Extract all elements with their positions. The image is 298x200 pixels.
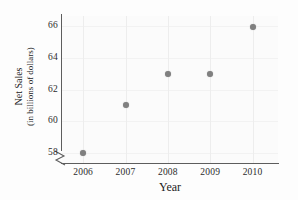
x-axis-tick-label: 2008 <box>158 167 178 177</box>
x-axis-tick-label: 2006 <box>73 167 93 177</box>
y-axis-title-line1: Net Sales <box>13 12 25 162</box>
vertical-gridline <box>83 16 84 163</box>
horizontal-gridline <box>62 90 278 91</box>
plot-area <box>62 16 278 163</box>
horizontal-gridline <box>62 153 278 154</box>
vertical-gridline <box>253 16 254 163</box>
horizontal-gridline <box>62 26 278 27</box>
y-axis-line <box>61 14 62 151</box>
vertical-gridline <box>210 16 211 163</box>
vertical-gridline <box>126 16 127 163</box>
vertical-gridline <box>168 16 169 163</box>
x-axis-tick-label: 2010 <box>243 167 263 177</box>
horizontal-gridline <box>62 121 278 122</box>
x-axis-tick-label: 2009 <box>200 167 220 177</box>
data-point <box>250 24 256 30</box>
x-axis-tick-label: 2007 <box>116 167 136 177</box>
data-point <box>80 150 86 156</box>
scatter-plot-figure: 5860626466 20062007200820092010 Year Net… <box>0 0 298 200</box>
x-axis-tick-labels: 20062007200820092010 <box>0 167 298 181</box>
y-axis-title-line2: (in billions of dollars) <box>24 12 36 162</box>
y-axis-title: Net Sales (in billions of dollars) <box>13 12 36 162</box>
data-point <box>123 102 129 108</box>
x-axis-line <box>61 163 279 164</box>
data-point <box>207 71 213 77</box>
x-axis-title: Year <box>62 180 278 195</box>
data-point <box>165 71 171 77</box>
horizontal-gridline <box>62 58 278 59</box>
